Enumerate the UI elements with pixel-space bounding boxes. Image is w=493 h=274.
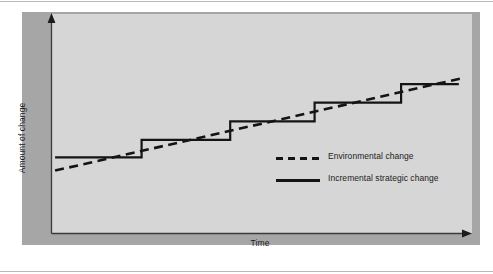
legend-item-environmental-change: Environmental change — [276, 149, 476, 171]
chart-svg — [0, 0, 493, 274]
legend-label-incremental-strategic-change: Incremental strategic change — [328, 173, 439, 183]
horizontal-axis-line — [52, 230, 473, 238]
legend-swatch-solid-icon — [276, 179, 320, 182]
legend-swatch-dashed-icon — [276, 157, 320, 160]
vertical-axis-line — [48, 13, 56, 234]
figure-container: Amount of change Time Environmental chan… — [0, 0, 493, 274]
legend: Environmental change Incremental strateg… — [276, 149, 476, 193]
legend-item-incremental-strategic-change: Incremental strategic change — [276, 171, 476, 193]
series-incremental-strategic-change — [55, 84, 459, 157]
legend-label-environmental-change: Environmental change — [328, 151, 414, 161]
